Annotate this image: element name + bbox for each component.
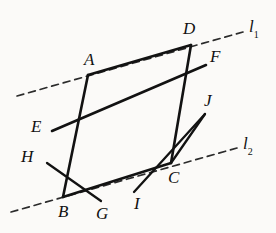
label-line-l2: l2 — [243, 135, 253, 155]
label-G: G — [96, 205, 108, 222]
segment-ab — [63, 75, 88, 197]
label-A: A — [84, 51, 94, 68]
dashed-line-l2 — [11, 148, 237, 212]
label-D: D — [183, 20, 195, 37]
label-E: E — [31, 118, 41, 135]
segment-ad — [88, 45, 191, 75]
segment-dc — [171, 45, 191, 163]
label-C: C — [168, 169, 179, 186]
label-J: J — [204, 92, 212, 109]
label-H: H — [21, 148, 33, 165]
label-l2-subscript: 2 — [248, 146, 253, 157]
label-line-l1: l1 — [249, 18, 259, 38]
label-B: B — [58, 203, 68, 220]
label-F: F — [210, 48, 220, 65]
diagram-page: A B C D E F G H I J l1 l2 — [0, 0, 276, 233]
label-l1-subscript: 1 — [254, 29, 259, 40]
segment-hg — [47, 163, 101, 201]
label-I: I — [134, 195, 140, 212]
